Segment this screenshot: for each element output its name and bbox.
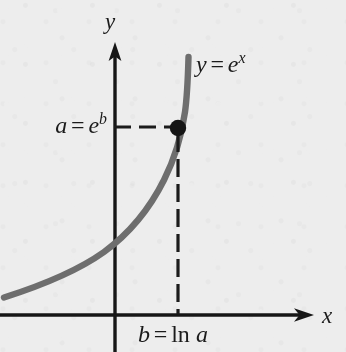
curve-label-base: e [228,51,239,77]
a-value-lhs: a [55,112,67,138]
curve-label-exponent: x [239,49,246,66]
b-value-equals: = [150,321,171,347]
x-axis [0,308,314,321]
figure-plot-area [0,0,346,352]
b-value-function: ln [171,321,190,347]
y-axis [109,42,122,352]
b-value-argument: a [196,321,208,347]
a-value-equals: = [67,112,88,138]
curve-label: y=ex [196,52,246,76]
a-value-exponent: b [99,110,107,127]
b-value-lhs: b [138,321,150,347]
y-axis-label: y [105,10,115,33]
intersection-point-marker [170,120,186,136]
b-value-label: b=ln a [138,322,208,346]
x-axis-label: x [322,304,332,327]
exponential-curve [4,57,189,298]
curve-label-lhs: y [196,51,207,77]
exponential-function-figure: y x y=ex a=eb b=ln a [0,0,346,352]
curve-label-equals: = [207,51,228,77]
a-value-label: a=eb [55,113,107,137]
a-value-base: e [88,112,99,138]
